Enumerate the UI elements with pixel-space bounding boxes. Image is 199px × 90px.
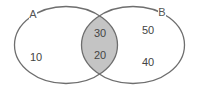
- set-b-label: B: [158, 6, 165, 18]
- b-only-bottom-value: 40: [142, 56, 154, 68]
- venn-svg: A B 10 30 20 50 40: [0, 0, 199, 90]
- set-a-label: A: [29, 8, 37, 20]
- venn-diagram: A B 10 30 20 50 40: [0, 0, 199, 90]
- b-only-top-value: 50: [142, 24, 154, 36]
- intersection-top-value: 30: [94, 27, 106, 39]
- intersection-bottom-value: 20: [94, 49, 106, 61]
- a-only-value: 10: [30, 51, 42, 63]
